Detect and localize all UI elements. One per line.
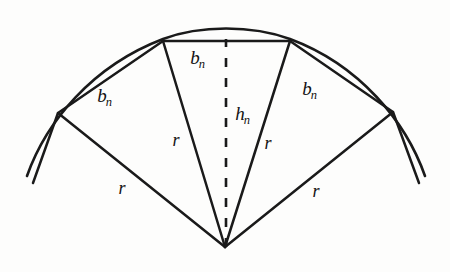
label-apothem-hn-sub: n <box>244 113 250 127</box>
chord-right-bn <box>290 41 419 183</box>
label-radius-inner-right: r <box>264 134 271 152</box>
label-chord-middle-bn: bn <box>190 48 206 67</box>
figure-canvas <box>0 0 450 272</box>
radius-inner-right <box>225 41 290 247</box>
radius-outer-left <box>58 113 225 247</box>
label-chord-middle-bn-sub: n <box>199 57 205 71</box>
label-apothem-hn: hn <box>235 104 251 123</box>
label-chord-right-bn-sub: n <box>311 88 317 102</box>
label-chord-right-bn: bn <box>302 79 318 98</box>
geometry-figure: bn bn bn hn r r r r <box>0 0 450 272</box>
label-radius-outer-left: r <box>118 179 125 197</box>
label-radius-inner-left: r <box>172 131 179 149</box>
label-radius-outer-right: r <box>312 182 319 200</box>
label-chord-left-bn-sub: n <box>106 95 112 109</box>
radius-outer-right <box>225 112 393 247</box>
chord-left-bn <box>33 41 163 183</box>
label-chord-left-bn: bn <box>97 86 113 105</box>
